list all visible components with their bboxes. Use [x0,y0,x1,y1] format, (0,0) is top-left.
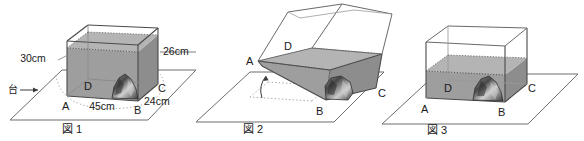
figure-1-water [67,32,158,101]
figure-2-vertex-d: D [284,40,292,52]
figure-1-vertex-a: A [62,100,70,112]
figure-3-vertex-c: C [528,82,536,94]
figure-1-dim-width: 45cm [89,100,115,112]
figure-3-vertex-a: A [421,103,429,115]
figure-1-vertex-b: B [134,104,141,116]
figure-2-vertex-a: A [246,55,254,67]
figure-1-caption: 図 1 [62,123,82,135]
figure-3-vertex-b: B [498,106,505,118]
figure-1-stand-label: 台 [8,83,18,95]
figure-3-caption: 図 3 [427,124,447,136]
figure-1-dim-depth: 24cm [144,95,170,107]
figure-3-vertex-d: D [444,82,452,94]
figure-1-vertex-d: D [84,80,92,92]
figure-1-dim-height: 30cm [20,52,46,64]
figure-1-vertex-c: C [158,82,166,94]
figure-2-vertex-c: C [378,87,386,99]
figure-2-caption: 図 2 [243,123,263,135]
figure-2-vertex-b: B [316,105,323,117]
figure-board: 30cm 26cm 45cm 24cm A B C D 台 図 1 [0,0,584,141]
figure-1-dim-rear-height: 26cm [163,45,189,57]
